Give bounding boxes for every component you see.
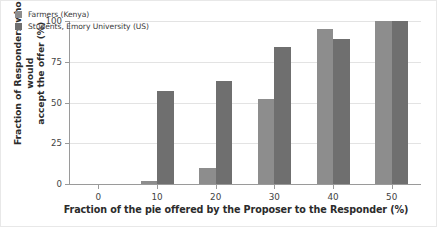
bar xyxy=(317,29,334,184)
x-tick-mark xyxy=(98,185,99,189)
x-tick-label: 10 xyxy=(151,192,162,202)
chart-figure: Fraction of Responders who would accept … xyxy=(0,0,437,227)
y-tick-label: 50 xyxy=(51,98,62,108)
legend: Farmers (Kenya)Students, Emory Universit… xyxy=(15,9,149,33)
y-tick-mark xyxy=(65,103,69,104)
gridline xyxy=(70,103,421,104)
bar xyxy=(375,21,392,184)
x-tick-mark xyxy=(333,185,334,189)
y-tick-label: 25 xyxy=(51,138,62,148)
x-tick-label: 20 xyxy=(210,192,221,202)
x-tick-mark xyxy=(274,185,275,189)
x-tick-label: 50 xyxy=(386,192,397,202)
y-tick-label: 75 xyxy=(51,57,62,67)
legend-label: Farmers (Kenya) xyxy=(28,10,89,19)
legend-swatch xyxy=(15,23,22,30)
x-axis-line xyxy=(69,184,421,185)
x-tick-mark xyxy=(392,185,393,189)
y-tick-mark xyxy=(65,62,69,63)
plot-area: 0255075100 01020304050 xyxy=(69,21,421,185)
x-tick-mark xyxy=(216,185,217,189)
bar xyxy=(199,168,216,184)
legend-label: Students, Emory University (US) xyxy=(28,22,149,31)
x-axis-title: Fraction of the pie offered by the Propo… xyxy=(41,204,431,215)
gridline xyxy=(70,62,421,63)
bar xyxy=(258,99,275,184)
y-tick-label: 0 xyxy=(57,179,62,189)
bar xyxy=(157,91,174,184)
x-tick-label: 30 xyxy=(269,192,280,202)
y-tick-mark xyxy=(65,143,69,144)
bar xyxy=(274,47,291,184)
bar xyxy=(216,81,233,184)
x-tick-label: 0 xyxy=(96,192,102,202)
bar xyxy=(333,39,350,184)
bar xyxy=(141,181,158,184)
x-tick-mark xyxy=(157,185,158,189)
gridline xyxy=(70,143,421,144)
legend-item: Students, Emory University (US) xyxy=(15,21,149,32)
bar xyxy=(392,21,409,184)
legend-swatch xyxy=(15,11,22,18)
legend-item: Farmers (Kenya) xyxy=(15,9,149,20)
x-tick-label: 40 xyxy=(327,192,338,202)
y-tick-mark xyxy=(65,184,69,185)
